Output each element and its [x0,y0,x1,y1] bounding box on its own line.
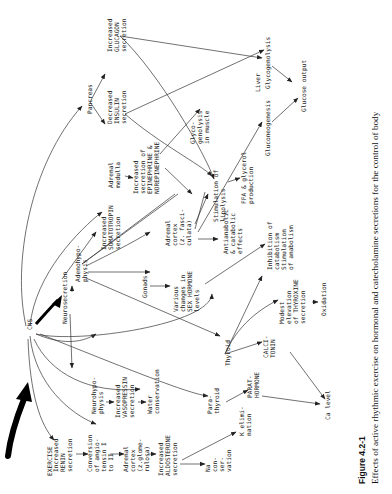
svg-text:Adrenal: Adrenal [164,220,171,246]
svg-text:of anabolism: of anabolism [287,225,294,270]
figure-caption: Figure 4.2-1 Effects of active rhythmic … [357,111,380,484]
svg-text:medulla: medulla [114,162,121,188]
svg-text:EPINEPHRINE &: EPINEPHRINE & [146,145,153,194]
svg-text:cortex: cortex [171,223,178,246]
svg-text:Antianabolic: Antianabolic [222,209,229,254]
node-calcitonin: CALCI- TONIN [262,336,276,358]
node-thyroid: Thyroid [224,340,232,366]
node-vasopressin: Increased VASOPRESSIN secretion [114,377,135,418]
svg-text:TONIN: TONIN [269,339,276,358]
svg-text:SOMATOTROPIN: SOMATOTROPIN [107,205,114,250]
node-neurosecretion: Neurosecretion [61,272,68,324]
node-renin: Increased RENIN secretion [52,438,73,472]
svg-text:secretion: secretion [120,18,127,52]
svg-text:NOREPINEPHRINE: NOREPINEPHRINE [153,142,160,194]
node-gonads: Gonads [141,275,148,298]
svg-text:of THYROXINE: of THYROXINE [292,279,299,324]
node-glucose-output: Glucose output [300,60,308,112]
figure-caption-text: Effects of active rhythmic exercise on h… [370,111,380,484]
exercise-arrow [8,399,24,456]
svg-text:secretion: secretion [171,442,178,476]
svg-text:conservation: conservation [153,369,160,414]
rotated-diagram: EXERCISE CNS Neurosecretion Pancreas Inc… [8,18,380,484]
node-neurohypophysis: Neurohypo- physis [90,377,105,414]
node-glycogenolysis-muscle: Glyco- genolysis in muscle [189,110,210,144]
svg-text:secretion: secretion [120,90,127,124]
svg-text:secretion of: secretion of [139,149,146,194]
svg-text:SEX HORMONE: SEX HORMONE [186,271,193,312]
svg-text:Stimulation: Stimulation [280,229,287,270]
node-adrenal-cortex-fasciculata: Adrenal cortex (z. fasci- culata) [164,209,192,246]
node-aldosterone: Increased ALDOSTERONE secretion [157,435,178,476]
figure-label: Figure 4.2-1 [357,436,367,484]
svg-text:Conversion: Conversion [86,434,93,472]
node-somatotropin: Increased SOMATOTROPIN secretion [100,205,121,250]
svg-text:RENIN: RENIN [59,453,66,472]
node-pancreas: Pancreas [86,84,93,114]
svg-text:PARAT-: PARAT- [246,376,253,398]
diagram-canvas: EXERCISE CNS Neurosecretion Pancreas Inc… [0,0,392,494]
figure-page: EXERCISE CNS Neurosecretion Pancreas Inc… [0,0,392,494]
svg-text:elevation: elevation [285,290,292,324]
node-na-conservation: Na con- ser- vation [204,449,232,472]
svg-text:Para-: Para- [206,395,213,414]
svg-text:effects: effects [236,228,243,254]
node-liver: Liver [254,73,261,92]
svg-text:to II: to II [107,453,114,472]
svg-text:Modest: Modest [278,301,285,324]
svg-text:secretion: secretion [299,290,306,324]
svg-text:Inhibition of: Inhibition of [266,221,273,270]
svg-text:tensin I: tensin I [100,442,107,472]
exercise-arrowhead-icon [16,382,32,402]
svg-text:Various: Various [172,286,179,312]
node-glucagon: Increased GLUCAGON secretion [106,18,127,52]
svg-text:Increased: Increased [52,438,59,472]
svg-text:K elimi-: K elimi- [238,406,245,436]
svg-text:HORMONE: HORMONE [253,372,260,398]
svg-text:Pancreas: Pancreas [86,84,93,114]
node-adenohypophysis: Adenohypo- physis [74,245,89,282]
node-insulin: Decreased INSULIN secretion [106,90,127,124]
node-ffa: FFA & glycerol production [240,152,255,204]
node-ca-level: Ca level [324,390,331,420]
svg-text:GLUCAGON: GLUCAGON [113,22,120,52]
svg-text:secretion: secretion [66,438,73,472]
svg-text:Decreased: Decreased [106,90,113,124]
svg-text:vation: vation [225,449,232,472]
node-oxidation: Oxidation [320,282,327,316]
node-parathyroid: Para- thyroid [206,388,221,414]
svg-text:VASOPRESSIN: VASOPRESSIN [121,377,128,418]
svg-text:Adrenal: Adrenal [107,162,114,188]
svg-text:Increased: Increased [132,160,139,194]
node-inhibition: Inhibition of catabolism Stimulation of … [266,221,294,270]
svg-text:CALCI-: CALCI- [262,336,269,358]
node-thyroxine: Modest elevation of THYROXINE secretion [278,279,306,324]
svg-text:physis: physis [81,259,89,282]
svg-text:Adrenal: Adrenal [122,446,129,472]
svg-text:secretion: secretion [114,216,121,250]
node-cns: CNS [26,319,33,330]
svg-text:Na: Na [204,464,211,472]
node-glycogenolysis: Glycogenolysis [264,37,272,89]
svg-text:nation: nation [245,413,252,436]
node-gluconeogenesis: Gluconeogenesis [264,100,272,156]
node-parathormone: PARAT- HORMONE [246,372,260,398]
nodes: EXERCISE CNS Neurosecretion Pancreas Inc… [26,18,331,476]
node-antianabolic: Antianabolic & catabolic effects [222,209,243,254]
svg-text:physis: physis [97,391,105,414]
svg-text:Increased: Increased [157,442,164,476]
svg-text:Increased: Increased [106,18,113,52]
svg-text:thyroid: thyroid [213,388,221,414]
node-water: Water conservation [146,369,160,414]
svg-text:con-: con- [211,457,218,472]
svg-text:secretion: secretion [128,384,135,418]
node-k-elimination: K elimi- nation [238,406,252,436]
svg-text:production: production [247,166,255,204]
svg-text:in muscle: in muscle [203,110,210,144]
svg-text:cortex: cortex [129,449,136,472]
svg-text:(z. fasci-: (z. fasci- [178,209,185,246]
svg-text:Stimulation of: Stimulation of [212,170,219,222]
svg-text:& catabolic: & catabolic [229,213,236,254]
node-sex-hormone: Various changes in SEX HORMONE levels [172,271,200,312]
node-adrenal-medulla: Adrenal medulla [107,162,121,188]
